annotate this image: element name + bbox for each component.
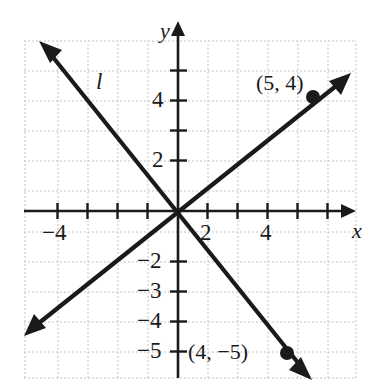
point-label-4-neg5: (4, −5) (188, 341, 248, 363)
y-axis (171, 21, 185, 378)
y-tick-label-4: 4 (152, 88, 164, 111)
y-axis-label: y (160, 20, 170, 42)
line-through-5-4 (24, 73, 351, 336)
y-tick-label-neg3: −3 (137, 279, 161, 302)
graph-canvas (0, 0, 373, 389)
coordinate-graph-figure: y x −4 2 4 4 2 −2 −3 −4 −5 l (5, 4) (4, … (0, 0, 373, 389)
point-marker-5-4 (306, 90, 320, 104)
x-tick-label-2: 2 (200, 221, 212, 244)
y-tick-label-neg5: −5 (137, 339, 161, 362)
x-tick-label-4: 4 (260, 221, 272, 244)
line-l-label: l (96, 70, 102, 93)
y-tick-label-2: 2 (152, 148, 164, 171)
point-marker-4-neg5 (280, 346, 294, 360)
point-label-5-4: (5, 4) (256, 72, 304, 94)
y-tick-label-neg2: −2 (137, 249, 161, 272)
y-tick-label-neg4: −4 (137, 309, 161, 332)
x-tick-label-neg4: −4 (42, 221, 66, 244)
x-axis-label: x (352, 220, 362, 242)
x-axis (24, 204, 356, 218)
grid-lines (24, 41, 357, 379)
